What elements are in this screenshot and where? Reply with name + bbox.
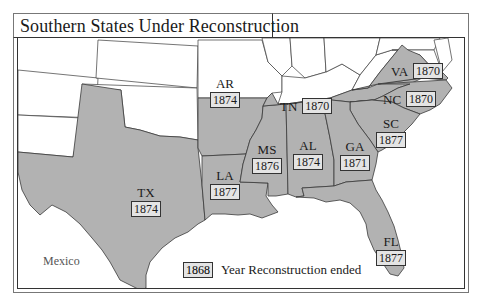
label-florida: FL 1877 (373, 235, 409, 266)
state-abbr: LA (207, 169, 243, 182)
label-mississippi: MS 1876 (249, 143, 285, 174)
state-abbr: SC (373, 117, 409, 130)
state-kansas (96, 40, 198, 88)
label-texas: TX 1874 (128, 186, 164, 217)
label-alabama: AL 1874 (290, 139, 326, 170)
year-box: 1874 (210, 92, 240, 108)
label-arkansas: AR 1874 (207, 77, 243, 108)
map-title: Southern States Under Reconstruction (20, 16, 299, 37)
year-box: 1874 (293, 154, 323, 170)
year-box: 1874 (131, 201, 161, 217)
legend-text: Year Reconstruction ended (221, 262, 361, 277)
state-indiana (290, 38, 326, 78)
state-abbr: FL (373, 235, 409, 248)
year-box: 1871 (340, 155, 370, 171)
state-abbr: AL (290, 139, 326, 152)
year-box: 1876 (252, 158, 282, 174)
state-abbr: MS (249, 143, 285, 156)
state-abbr: GA (337, 140, 373, 153)
state-abbr: VA (391, 65, 408, 78)
label-georgia: GA 1871 (337, 140, 373, 171)
label-north-carolina: NC 1870 (383, 89, 436, 107)
legend: 1868 Year Reconstruction ended (183, 260, 361, 278)
year-box: 1870 (302, 98, 332, 114)
label-tennessee: TN 1870 (280, 96, 332, 114)
state-abbr: AR (207, 77, 243, 90)
state-new-mexico (18, 115, 82, 157)
year-box: 1877 (376, 132, 406, 148)
year-box: 1877 (376, 250, 406, 266)
year-box: 1870 (413, 63, 443, 79)
year-box: 1877 (210, 184, 240, 200)
legend-year-swatch: 1868 (183, 262, 213, 278)
label-south-carolina: SC 1877 (373, 117, 409, 148)
state-abbr: NC (383, 93, 401, 106)
year-box: 1870 (406, 91, 436, 107)
label-louisiana: LA 1877 (207, 169, 243, 200)
label-mexico: Mexico (43, 254, 80, 269)
label-virginia: VA 1870 (391, 61, 443, 79)
title-box: Southern States Under Reconstruction (13, 13, 273, 38)
state-abbr: TX (128, 186, 164, 199)
state-abbr: TN (280, 100, 297, 113)
